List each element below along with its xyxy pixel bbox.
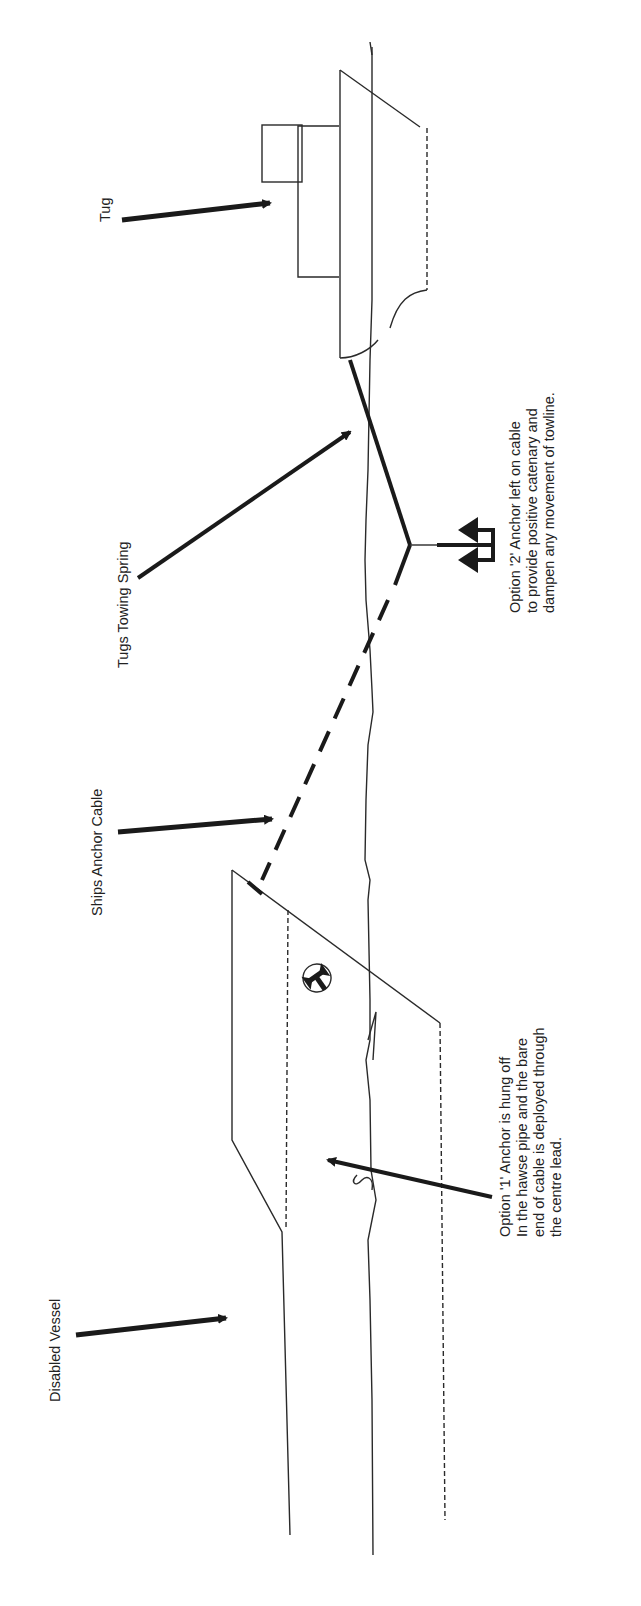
waterline xyxy=(365,47,376,1555)
towing-diagram: Tug Tugs Towing Spring Ships Anchor Cabl… xyxy=(0,0,641,1606)
option1-line1: Option '1' Anchor is hung off xyxy=(497,1056,513,1237)
disabled-vessel-hull xyxy=(232,870,445,1535)
option1-line2: In the hawse pipe and the bare xyxy=(514,1038,530,1237)
label-towing-spring: Tugs Towing Spring xyxy=(115,541,131,668)
label-disabled-vessel: Disabled Vessel xyxy=(47,1299,63,1402)
option1-note: Option '1' Anchor is hung off In the haw… xyxy=(497,1027,564,1237)
label-anchor-cable: Ships Anchor Cable xyxy=(89,789,105,916)
anchor-cable-arrow xyxy=(118,819,272,832)
towing-spring-arrow xyxy=(138,432,350,578)
disabled-vessel-arrow xyxy=(76,1318,226,1335)
anchor-hawse-symbol xyxy=(298,959,337,998)
option1-line3: end of cable is deployed through xyxy=(531,1027,547,1237)
tug-arrow xyxy=(122,203,270,220)
option2-line2: to provide positive catenary and xyxy=(524,408,540,613)
option2-line1: Option '2' Anchor left on cable xyxy=(507,421,523,613)
option1-arrow xyxy=(328,1160,492,1197)
option1-line4: the centre lead. xyxy=(548,1137,564,1237)
tug-superstructure xyxy=(298,126,339,277)
option2-line3: dampen any movement of towline. xyxy=(541,392,557,613)
option2-note: Option '2' Anchor left on cable to provi… xyxy=(507,392,557,613)
towing-spring xyxy=(350,360,410,545)
tug-wheelhouse xyxy=(262,125,302,182)
anchor-option-2 xyxy=(410,517,495,573)
label-tug: Tug xyxy=(97,198,113,222)
tug xyxy=(262,42,427,1555)
anchor-cable xyxy=(395,545,410,585)
